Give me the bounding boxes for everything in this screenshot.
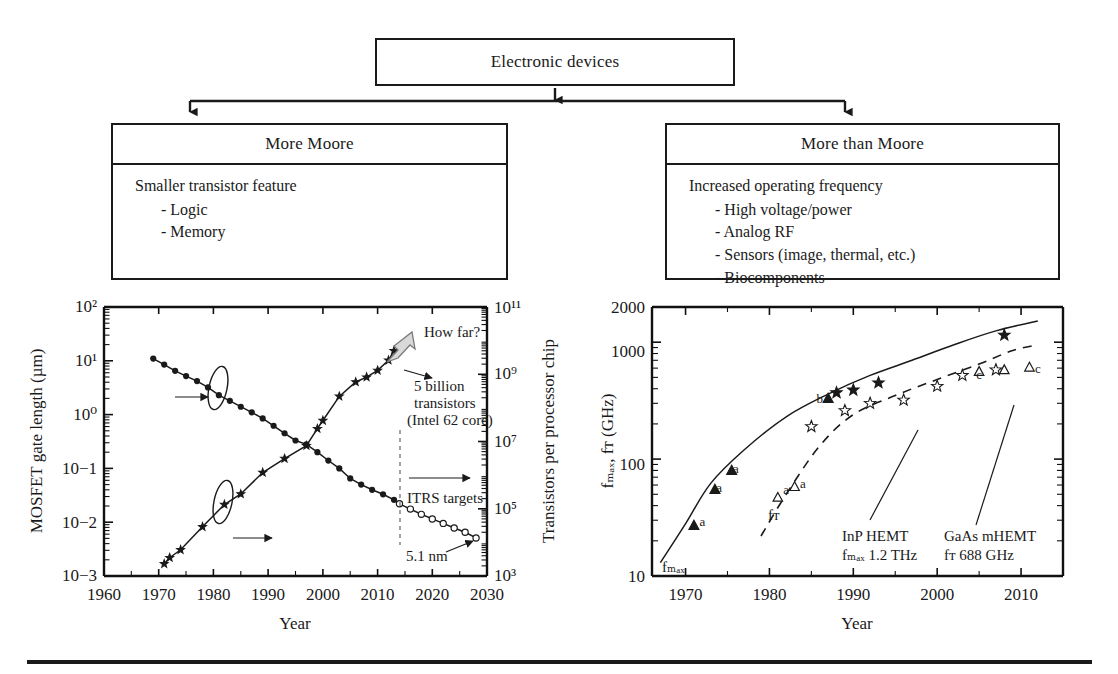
svg-text:1960: 1960 (87, 585, 121, 604)
svg-text:1980: 1980 (196, 585, 230, 604)
hemt-annotation-fmax: fₘₐₓ (662, 559, 685, 575)
hemt-annotation-gaas-2: fᴛ 688 GHz (944, 547, 1014, 563)
svg-text:2010: 2010 (361, 585, 395, 604)
hemt-letter-a: a (733, 461, 739, 476)
svg-text:1970: 1970 (669, 585, 703, 604)
chart-moore: 1960 1970 1980 1990 2000 2010 2020 2030 … (27, 297, 558, 633)
svg-text:10²: 10² (75, 297, 97, 316)
svg-text:10⁰: 10⁰ (73, 405, 97, 424)
gaas-mhemt-leader (976, 405, 1014, 525)
svg-text:1970: 1970 (142, 585, 176, 604)
chart-hemt: 1970 1980 1990 2000 2010 Year 10 100 100… (598, 298, 1063, 633)
moore-annotation-5b-3: (Intel 62 core) (407, 412, 493, 429)
svg-text:2030: 2030 (470, 585, 504, 604)
svg-text:1000: 1000 (611, 342, 645, 361)
hemt-letter-c: c (1035, 361, 1041, 376)
moore-annotation-how-far: How far? (424, 324, 481, 340)
how-far-arrow-icon (387, 332, 415, 362)
hemt-annotation-gaas-1: GaAs mHEMT (944, 528, 1036, 544)
svg-text:10−1: 10−1 (62, 459, 97, 478)
figure-canvas: Electronic devices More Moore Smaller tr… (0, 0, 1118, 674)
svg-text:2020: 2020 (415, 585, 449, 604)
hemt-annotation-ft: fᴛ (768, 507, 780, 523)
hemt-letter-b: b (817, 391, 824, 406)
flow-connectors: 1960 1970 1980 1990 2000 2010 2020 2030 … (0, 0, 1118, 674)
moore-yticklabels-right: 10³ 10⁵ 10⁷ 10⁹ 10¹¹ (494, 298, 521, 586)
svg-text:10−3: 10−3 (62, 566, 97, 585)
moore-xticklabels: 1960 1970 1980 1990 2000 2010 2020 2030 (87, 585, 504, 604)
hemt-xticklabels: 1970 1980 1990 2000 2010 (669, 585, 1038, 604)
moore-annotation-51nm: 5.1 nm (406, 548, 448, 564)
hemt-ylabel: fₘₐₓ, fᴛ (GHz) (598, 394, 617, 489)
five-one-nm-leader (446, 541, 473, 552)
svg-text:10−2: 10−2 (62, 513, 97, 532)
hemt-letter-a: a (800, 476, 806, 491)
svg-text:1980: 1980 (752, 585, 786, 604)
inp-hemt-leader (870, 430, 918, 520)
hemt-letter-a: a (699, 514, 705, 529)
svg-text:10¹: 10¹ (75, 351, 97, 370)
moore-annotation-itrs: ITRS targets (407, 490, 483, 506)
svg-text:2010: 2010 (1004, 585, 1038, 604)
svg-text:2000: 2000 (920, 585, 954, 604)
moore-xlabel: Year (279, 614, 311, 633)
moore-yticklabels-left: 10−3 10−2 10−1 10⁰ 10¹ 10² (62, 297, 97, 585)
hemt-letter-c: c (976, 367, 982, 382)
svg-text:10³: 10³ (494, 566, 516, 585)
five-billion-leader (404, 370, 432, 378)
svg-text:2000: 2000 (306, 585, 340, 604)
svg-text:10⁹: 10⁹ (494, 364, 517, 383)
svg-text:100: 100 (620, 455, 646, 474)
svg-text:1990: 1990 (251, 585, 285, 604)
svg-text:10⁵: 10⁵ (494, 499, 517, 518)
moore-ylabel-left: MOSFET gate length (µm) (27, 349, 46, 534)
right-axis-pointer-ellipse (210, 479, 237, 526)
svg-text:10¹¹: 10¹¹ (494, 298, 521, 317)
hemt-letter-a: a (716, 480, 722, 495)
svg-text:2000: 2000 (611, 298, 645, 317)
moore-annotation-5b-1: 5 billion (414, 378, 465, 394)
hemt-annotation-inp-2: fₘₐₓ 1.2 THz (842, 547, 918, 563)
hemt-letter-a: a (783, 482, 789, 497)
svg-text:10: 10 (628, 567, 645, 586)
hemt-xlabel: Year (841, 614, 873, 633)
moore-ylabel-right: Transistors per processor chip (539, 339, 558, 543)
bottom-rule (27, 660, 1092, 664)
svg-text:10⁷: 10⁷ (494, 432, 517, 451)
left-axis-pointer-ellipse (205, 365, 232, 412)
svg-text:1990: 1990 (836, 585, 870, 604)
moore-annotation-5b-2: transistors (414, 395, 476, 411)
hemt-annotation-inp-1: InP HEMT (842, 528, 909, 544)
